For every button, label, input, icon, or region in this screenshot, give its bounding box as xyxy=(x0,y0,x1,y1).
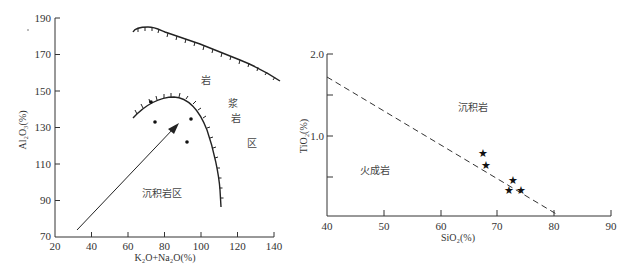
right-x-tick-80: 80 xyxy=(549,220,561,232)
data-point xyxy=(189,117,193,121)
left-data-points xyxy=(149,100,193,144)
right-y-axis-title: TiO₂(%) xyxy=(298,119,310,153)
magma-label-3: 岩 xyxy=(231,112,241,124)
star-point: ★ xyxy=(481,159,491,172)
left-x-tick-140: 140 xyxy=(266,240,283,252)
left-y-tick-110: 110 xyxy=(35,158,52,170)
data-point xyxy=(185,140,189,144)
upper-boundary-hatches xyxy=(138,27,275,80)
right-x-tick-50: 50 xyxy=(379,220,391,232)
right-x-tick-90: 90 xyxy=(606,220,618,232)
right-x-axis-title: SiO₂(%) xyxy=(441,232,475,244)
left-chart: 190 170 150 130 110 90 70 20 40 60 80 10… xyxy=(17,12,283,264)
star-point: ★ xyxy=(504,184,514,197)
left-y-tick-90: 90 xyxy=(40,194,52,206)
right-x-tick-60: 60 xyxy=(436,220,448,232)
right-x-tick-70: 70 xyxy=(492,220,504,232)
right-y-tick-1: 1.0 xyxy=(310,130,324,142)
magma-label-2: 浆 xyxy=(228,97,238,109)
left-y-tick-150: 150 xyxy=(35,85,52,97)
left-y-ticks xyxy=(55,18,60,201)
left-y-axis-title: Al₂O₃(%) xyxy=(17,110,29,149)
left-x-tick-120: 120 xyxy=(229,240,246,252)
left-y-tick-190: 190 xyxy=(35,12,52,24)
data-point xyxy=(153,120,157,124)
lower-boundary-hatches xyxy=(135,93,224,198)
left-x-tick-100: 100 xyxy=(193,240,210,252)
right-chart: 2.0 1.0 40 50 60 70 80 90 SiO₂(%) TiO₂(%… xyxy=(298,48,617,244)
right-x-tick-40: 40 xyxy=(322,220,334,232)
trend-arrow-line xyxy=(77,128,174,230)
stray-dot xyxy=(27,29,29,31)
left-y-tick-130: 130 xyxy=(35,121,52,133)
left-x-tick-20: 20 xyxy=(50,240,62,252)
igneous-label: 火成岩 xyxy=(360,164,390,176)
left-x-ticks xyxy=(92,232,275,237)
left-x-tick-60: 60 xyxy=(123,240,135,252)
magma-label-1: 岩 xyxy=(201,74,211,86)
left-x-axis-title: K₂O+Na₂O(%) xyxy=(135,252,196,264)
left-y-tick-170: 170 xyxy=(35,48,52,60)
upper-boundary-curve xyxy=(133,27,280,81)
right-x-ticks xyxy=(384,210,611,216)
sediment-region-label: 沉积岩区 xyxy=(142,187,182,199)
left-x-tick-40: 40 xyxy=(86,240,98,252)
data-point xyxy=(149,100,153,104)
right-y-tick-2: 2.0 xyxy=(310,48,324,60)
figure: 190 170 150 130 110 90 70 20 40 60 80 10… xyxy=(0,0,629,273)
sediment-label: 沉积岩 xyxy=(458,101,488,113)
star-point: ★ xyxy=(516,184,526,197)
left-x-tick-80: 80 xyxy=(159,240,171,252)
right-y-ticks xyxy=(327,54,333,177)
magma-label-4: 区 xyxy=(247,138,257,149)
